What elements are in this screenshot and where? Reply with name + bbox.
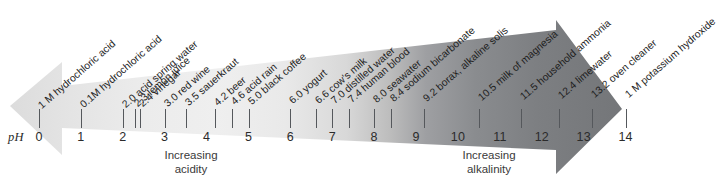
axis-number: 11 (488, 130, 512, 144)
axis-number: 3 (153, 130, 177, 144)
axis-number: 7 (320, 130, 344, 144)
axis-tick (290, 109, 291, 128)
axis-number: 6 (278, 130, 302, 144)
caption-increasing-alkalinity: Increasing alkalinity (424, 148, 554, 176)
axis-tick (521, 109, 522, 128)
axis-tick (249, 109, 250, 128)
axis-tick (479, 109, 480, 128)
axis-tick (374, 109, 375, 128)
axis-tick (123, 109, 124, 128)
axis-number: 5 (237, 130, 261, 144)
axis-tick (140, 109, 141, 128)
axis-number: 13 (572, 130, 596, 144)
axis-number: 9 (404, 130, 428, 144)
caption-acidity-line1: Increasing (126, 148, 256, 162)
axis-tick (424, 109, 425, 128)
axis-number: 0 (27, 130, 51, 144)
caption-alkalinity-line2: alkalinity (424, 162, 554, 176)
axis-number: 14 (614, 130, 638, 144)
caption-acidity-line2: acidity (126, 162, 256, 176)
axis-tick (592, 109, 593, 128)
axis-tick (559, 109, 560, 128)
axis-tick (39, 109, 40, 128)
axis-tick (332, 109, 333, 128)
axis-tick (135, 109, 136, 128)
axis-tick (626, 109, 627, 128)
axis-number: 8 (362, 130, 386, 144)
axis-tick (232, 109, 233, 128)
axis-tick (316, 109, 317, 128)
ph-scale-diagram: pH 01234567891011121314 1 M hydrochloric… (0, 0, 719, 186)
axis-tick (81, 109, 82, 128)
axis-tick (391, 109, 392, 128)
caption-alkalinity-line1: Increasing (424, 148, 554, 162)
axis-number: 4 (195, 130, 219, 144)
axis-number: 10 (446, 130, 470, 144)
caption-increasing-acidity: Increasing acidity (126, 148, 256, 176)
axis-tick (215, 109, 216, 128)
axis-label-ph: pH (8, 130, 24, 145)
axis-tick (186, 109, 187, 128)
axis-tick (349, 109, 350, 128)
axis-number: 2 (111, 130, 135, 144)
axis-number: 1 (69, 130, 93, 144)
axis-tick (165, 109, 166, 128)
axis-number: 12 (530, 130, 554, 144)
